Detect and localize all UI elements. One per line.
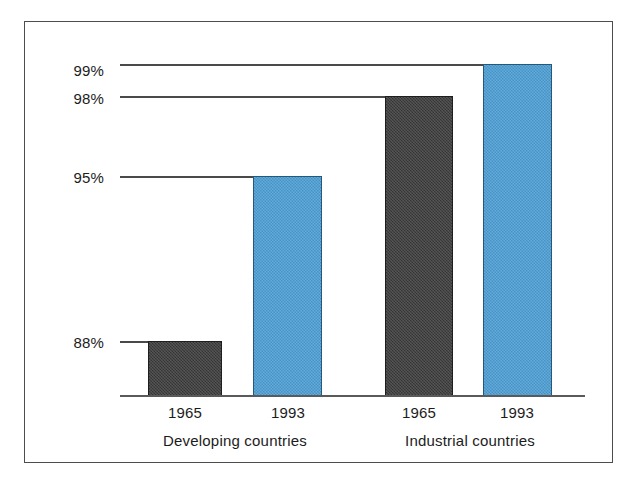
chart-screenshot: enrollment ratios 99% 98% 95% 88% 1965 1… [0, 0, 638, 484]
x-tick-developing-1993: 1993 [248, 404, 328, 421]
x-tick-industrial-1965: 1965 [379, 404, 459, 421]
y-axis-label-95: 95% [40, 169, 104, 186]
gridline-95 [120, 176, 253, 178]
x-tick-developing-1965: 1965 [145, 404, 225, 421]
gridline-98 [120, 96, 385, 98]
bar-industrial-1993 [483, 64, 552, 396]
y-axis-label-98: 98% [40, 90, 104, 107]
group-label-industrial-countries: Industrial countries [370, 432, 570, 449]
bar-developing-1965 [148, 341, 222, 396]
gridline-99 [120, 64, 483, 66]
bar-industrial-1965 [385, 96, 453, 396]
y-axis-label-99: 99% [40, 62, 104, 79]
y-axis-label-88: 88% [40, 334, 104, 351]
gridline-88 [120, 341, 148, 343]
x-tick-industrial-1993: 1993 [477, 404, 557, 421]
plot-area: 99% 98% 95% 88% 1965 1993 1965 1993 Deve… [0, 0, 638, 484]
group-label-developing-countries: Developing countries [135, 432, 335, 449]
x-axis-baseline [120, 395, 585, 397]
bar-developing-1993 [253, 176, 322, 396]
